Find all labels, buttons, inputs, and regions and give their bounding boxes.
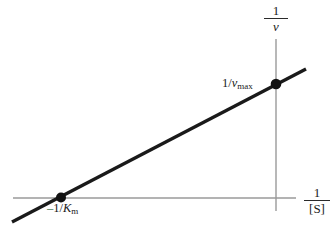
x-axis-label: 1 [S] (304, 186, 330, 215)
y-axis-label-denominator: v (264, 19, 288, 33)
y-axis-label: 1 v (264, 4, 288, 33)
x-axis-label-numerator: 1 (304, 186, 330, 200)
x-axis-label-denominator: [S] (304, 201, 330, 215)
y-intercept-label: 1/vmax (222, 76, 253, 91)
regression-line (12, 69, 306, 222)
lineweaver-burk-plot-figure: 1 v 1 [S] 1/vmax –1/Km (0, 0, 335, 234)
x-intercept-label-prefix: 1/ (53, 201, 63, 215)
y-intercept-label-prefix: 1/ (222, 76, 232, 90)
x-intercept-label-subscript: m (71, 206, 78, 216)
y-intercept-label-subscript: max (237, 81, 253, 91)
y-axis-label-numerator: 1 (264, 4, 288, 18)
plot-canvas (0, 0, 335, 234)
x-intercept-label: –1/Km (47, 201, 78, 216)
y-intercept-marker (271, 79, 282, 90)
